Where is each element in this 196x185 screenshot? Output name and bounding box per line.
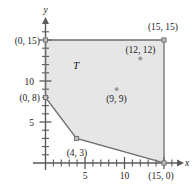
polygon-region-figure: x y 5 10 5 10 (0, 15) (15, 15) (15, 0) (… <box>0 0 196 185</box>
vertex-marker-15-0 <box>162 161 166 165</box>
vertex-marker-0-8 <box>43 95 47 99</box>
vertex-label-0-8: (0, 8) <box>19 93 40 104</box>
vertex-label-0-15: (0, 15) <box>15 36 40 47</box>
vertex-label-4-3: (4, 3) <box>67 148 88 159</box>
vertex-marker-0-15 <box>43 38 47 42</box>
point-marker-9-9 <box>115 87 119 91</box>
y-tick-label-10: 10 <box>25 77 35 87</box>
region-label-T: T <box>73 59 80 71</box>
vertex-marker-4-3 <box>74 136 78 140</box>
coordinate-plot: x y 5 10 5 10 (0, 15) (15, 15) (15, 0) (… <box>0 0 196 185</box>
point-label-12-12: (12, 12) <box>125 45 155 56</box>
vertex-label-15-15: (15, 15) <box>148 22 178 33</box>
x-tick-label-5: 5 <box>83 171 88 181</box>
y-axis-label: y <box>42 5 48 15</box>
point-marker-12-12 <box>138 57 142 61</box>
x-axis-label: x <box>184 158 190 168</box>
y-tick-label-5: 5 <box>29 118 34 128</box>
x-axis-arrowhead <box>177 160 184 167</box>
region-T-fill <box>46 40 165 163</box>
point-label-9-9: (9, 9) <box>106 94 127 105</box>
x-tick-label-10: 10 <box>120 171 130 181</box>
vertex-label-15-0: (15, 0) <box>148 171 173 182</box>
vertex-marker-15-15 <box>162 38 166 42</box>
y-axis-arrowhead <box>42 17 49 24</box>
